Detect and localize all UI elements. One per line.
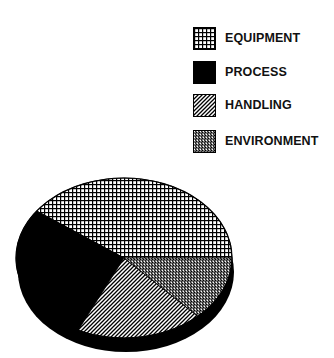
checker-pattern-swatch-icon bbox=[193, 130, 216, 153]
legend-item-equipment: EQUIPMENT bbox=[193, 27, 333, 51]
legend-label: HANDLING bbox=[225, 98, 292, 112]
legend-item-handling: HANDLING bbox=[193, 94, 333, 118]
diagonal-hatch-swatch-icon bbox=[193, 94, 216, 117]
solid-black-swatch-icon bbox=[193, 61, 216, 84]
legend-label: EQUIPMENT bbox=[225, 31, 300, 45]
pie-slices bbox=[16, 178, 232, 338]
legend-item-process: PROCESS bbox=[193, 61, 333, 85]
legend-label: ENVIRONMENT bbox=[225, 134, 318, 148]
legend-item-environment: ENVIRONMENT bbox=[193, 130, 333, 154]
legend-label: PROCESS bbox=[225, 65, 287, 79]
grid-pattern-swatch-icon bbox=[193, 27, 216, 50]
pie-chart bbox=[0, 0, 334, 358]
